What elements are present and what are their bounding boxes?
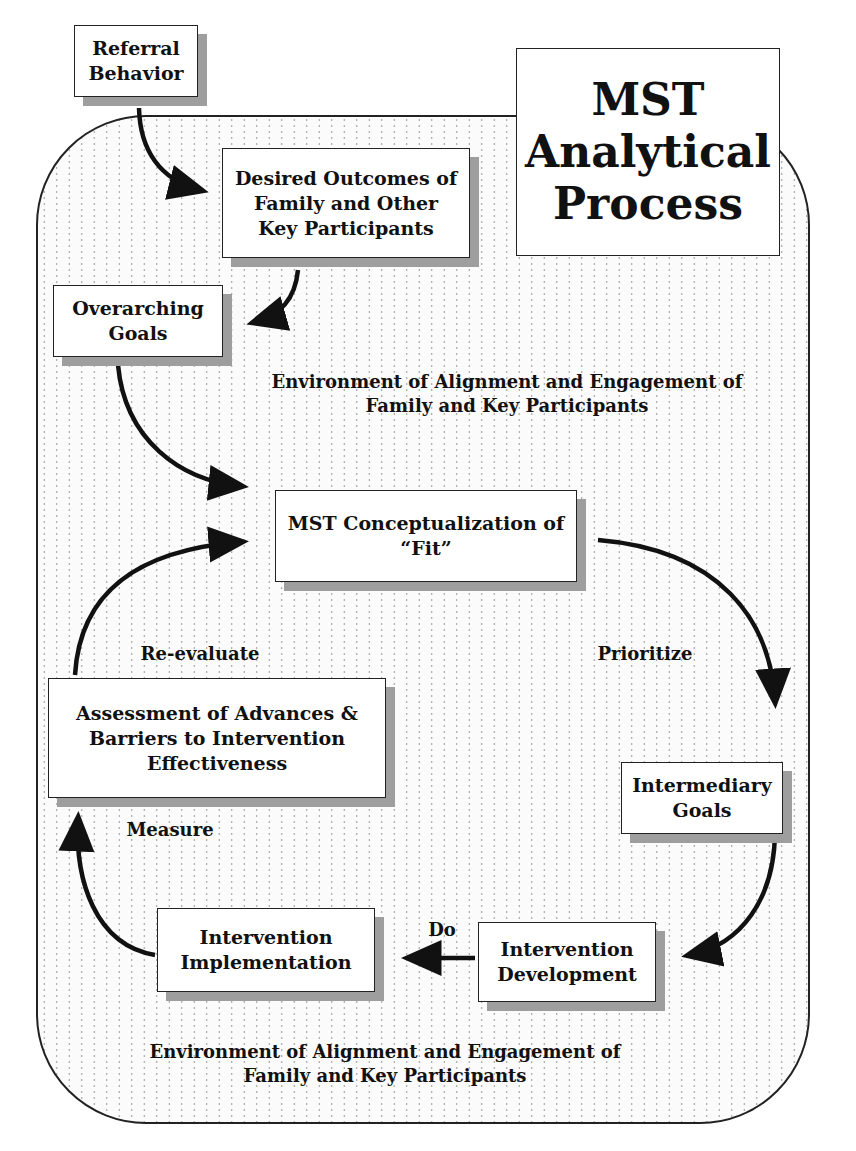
node-mst-fit: MST Conceptualization of “Fit” [275,490,577,582]
edge-label-reevaluate: Re-evaluate [125,642,275,666]
title-line-2: Analytical [525,126,771,178]
node-referral-behavior: Referral Behavior [74,25,198,97]
node-overarching-goals: Overarching Goals [53,285,223,357]
title-box: MST Analytical Process [516,48,780,256]
arrow-intermediary-to-development [690,830,775,955]
edge-label-do: Do [412,918,472,942]
title-line-3: Process [525,178,771,230]
environment-label-top: Environment of Alignment and Engagement … [262,370,752,418]
arrow-referral-to-desired [139,108,200,190]
title-line-1: MST [525,74,771,126]
arrow-fit-to-intermediary [598,540,775,700]
node-intervention-implementation: Intervention Implementation [157,908,375,992]
arrow-desired-to-overarching [255,270,298,322]
edge-label-measure: Measure [110,818,230,842]
arrow-overarching-to-fit [118,365,240,486]
edge-label-prioritize: Prioritize [570,642,720,666]
environment-label-bottom: Environment of Alignment and Engagement … [140,1040,630,1088]
node-intervention-development: Intervention Development [478,922,656,1002]
node-assessment: Assessment of Advances & Barriers to Int… [48,678,386,798]
node-intermediary-goals: Intermediary Goals [621,762,783,834]
node-desired-outcomes: Desired Outcomes of Family and Other Key… [222,148,470,258]
diagram-canvas: Referral Behavior Desired Outcomes of Fa… [0,0,856,1151]
